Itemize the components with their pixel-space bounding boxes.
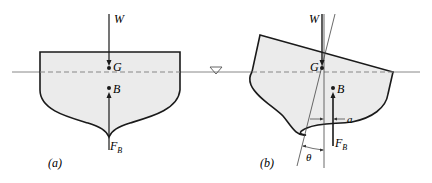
label-a-b: a xyxy=(347,113,353,125)
label-fb-b: FB xyxy=(334,136,347,152)
label-theta-b: θ xyxy=(306,151,312,163)
panel-a: W G B FB (a) xyxy=(40,12,180,170)
caption-a: (a) xyxy=(48,156,62,170)
center-of-buoyancy-a xyxy=(107,86,111,90)
label-b-b: B xyxy=(337,82,345,96)
label-g-a: G xyxy=(113,60,122,74)
floating-body-stability-diagram: W G B FB (a) W G B a FB θ xyxy=(0,0,432,183)
label-b-a: B xyxy=(113,82,121,96)
label-w-a: W xyxy=(114,12,125,26)
label-w-b: W xyxy=(309,12,320,26)
label-g-b: G xyxy=(310,60,319,74)
center-of-gravity-a xyxy=(107,66,111,70)
label-fb-a: FB xyxy=(109,139,122,155)
arrowhead-right-icon xyxy=(320,149,324,152)
caption-b: (b) xyxy=(260,156,274,170)
panel-b: W G B a FB θ (b) xyxy=(250,12,393,170)
free-surface-icon xyxy=(210,67,222,74)
center-of-buoyancy-b xyxy=(331,86,335,90)
center-of-gravity-b xyxy=(320,66,324,70)
